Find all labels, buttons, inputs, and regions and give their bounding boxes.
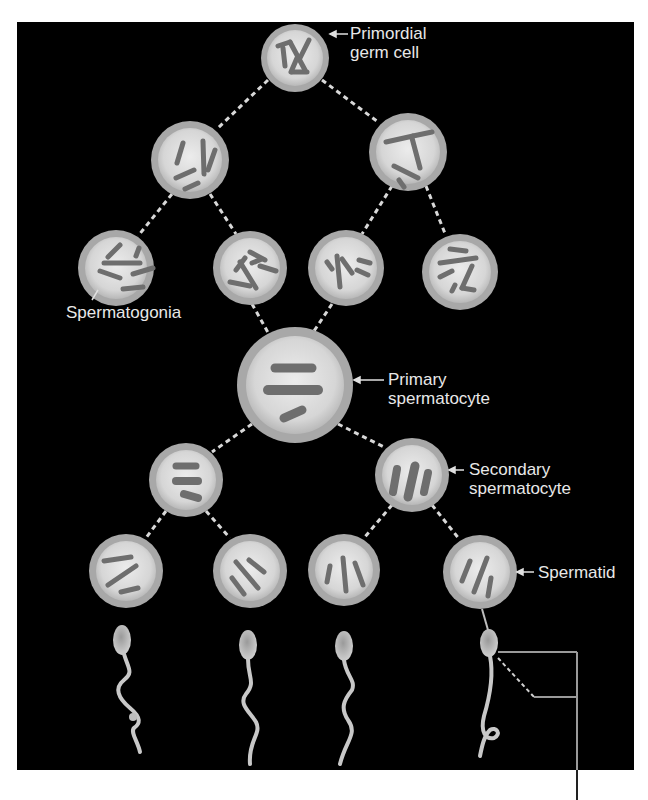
spermatogonium-cell: [213, 231, 287, 305]
secondary-spermatocyte-cell: [149, 443, 223, 517]
label-line: Spermatogonia: [66, 303, 181, 322]
spermatid-cell: [308, 534, 380, 606]
label-line: spermatocyte: [469, 479, 571, 498]
spermatid-cell: [443, 535, 517, 609]
label-line: Secondary: [469, 460, 571, 479]
primary-spermatocyte-label: Primary spermatocyte: [388, 370, 490, 408]
sperm-part-leader-lines: [498, 652, 577, 800]
sperm-cell: [239, 630, 258, 764]
sperm-cell: [113, 625, 140, 752]
spermatogonium-cell: [308, 230, 384, 306]
primordial-germ-cell: [261, 24, 329, 92]
label-line: Spermatid: [538, 563, 615, 582]
spermatogonia-label: Spermatogonia: [66, 303, 181, 322]
primordial-germ-cell-label: Primordial germ cell: [350, 24, 427, 62]
secondary-spermatocyte-label: Secondary spermatocyte: [469, 460, 571, 498]
sperm-cell: [335, 631, 353, 764]
label-line: Primary: [388, 370, 490, 389]
spermatogenesis-diagram: [0, 0, 648, 800]
spermatid-cell: [213, 534, 287, 608]
secondary-spermatocyte-cell: [375, 438, 449, 512]
spermatid-cell: [89, 534, 163, 608]
spermatogonium-cell: [78, 230, 154, 306]
label-line: Primordial: [350, 24, 427, 43]
sperm-cell: [480, 629, 498, 756]
spermatogonium-cell: [422, 234, 498, 310]
spermatogonium-cell: [369, 113, 447, 191]
primary-spermatocyte-cell: [237, 327, 353, 443]
spermatid-label: Spermatid: [538, 563, 615, 582]
label-line: spermatocyte: [388, 389, 490, 408]
label-line: germ cell: [350, 43, 427, 62]
spermatogonium-cell: [151, 121, 229, 199]
